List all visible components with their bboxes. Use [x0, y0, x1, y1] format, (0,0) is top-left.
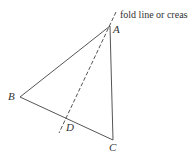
side-bc: [20, 97, 113, 140]
vertex-label-a: A: [112, 23, 120, 35]
fold-line: [59, 12, 116, 133]
side-ac: [110, 26, 113, 140]
vertex-label-d: D: [65, 121, 74, 133]
fold-line-caption: fold line or crease: [120, 9, 188, 20]
triangle-fold-diagram: fold line or crease A B C D: [0, 0, 188, 163]
vertex-label-b: B: [8, 90, 15, 102]
vertex-label-c: C: [109, 141, 117, 153]
side-ab: [20, 26, 110, 97]
